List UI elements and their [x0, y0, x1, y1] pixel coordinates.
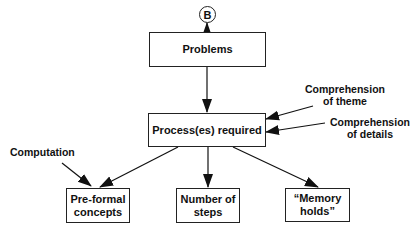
node-preformal-concepts: Pre-formal concepts — [66, 188, 130, 223]
node-preformal-line2: concepts — [74, 206, 122, 219]
node-problems-label: Problems — [182, 43, 232, 56]
details-line1: Comprehension — [325, 116, 415, 128]
theme-line1: Comprehension — [300, 83, 390, 95]
theme-line2: of theme — [300, 95, 390, 107]
node-process-label: Process(es) required — [152, 124, 261, 137]
node-memory-line1: “Memory — [294, 192, 342, 205]
node-preformal-line1: Pre-formal — [70, 193, 125, 206]
edge-process-memory — [233, 147, 318, 187]
input-comprehension-of-details: Comprehension of details — [325, 116, 415, 140]
computation-label: Computation — [10, 146, 75, 158]
connector-label: B — [204, 9, 212, 21]
edge-details-process — [266, 123, 325, 132]
details-line2: of details — [325, 128, 415, 140]
node-steps-line2: steps — [194, 206, 223, 219]
edge-process-preformal — [100, 147, 178, 187]
node-memory-line2: holds” — [300, 205, 335, 218]
edge-theme-process — [266, 106, 313, 119]
node-steps-line1: Number of — [181, 193, 236, 206]
connector-b: B — [199, 6, 216, 23]
edge-computation-preformal — [62, 163, 91, 186]
node-memory-holds: “Memory holds” — [285, 188, 350, 222]
input-comprehension-of-theme: Comprehension of theme — [300, 83, 390, 107]
node-problems: Problems — [149, 32, 266, 67]
input-computation: Computation — [10, 146, 75, 158]
node-number-of-steps: Number of steps — [176, 188, 240, 223]
node-process-required: Process(es) required — [148, 113, 266, 147]
